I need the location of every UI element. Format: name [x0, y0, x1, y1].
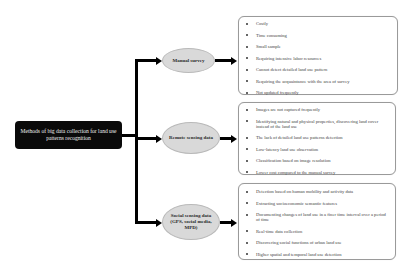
arrowhead-to-remote-list	[231, 135, 237, 143]
list-item: Requiring intensive labor resources	[239, 56, 397, 61]
bullet-icon	[246, 148, 248, 150]
characteristics-list-manual-survey: Costly Time consuming Small sample Requi…	[239, 21, 397, 95]
characteristics-box-manual-survey: Costly Time consuming Small sample Requi…	[238, 16, 398, 95]
bullet-icon	[246, 92, 248, 94]
bullet-icon	[246, 214, 248, 216]
bullet-icon	[246, 109, 248, 111]
root-node-box: Methods of big data collection for land …	[15, 121, 122, 149]
characteristics-box-social-sensing: Detection based on human mobility and ac…	[238, 183, 396, 260]
bullet-icon	[246, 202, 248, 204]
list-item: Lower cost compared to the manual survey	[239, 170, 395, 175]
arrowhead-to-social-list	[231, 219, 237, 227]
list-item: Classification based on image resolution	[239, 158, 395, 163]
bullet-icon	[246, 230, 248, 232]
bullet-icon	[246, 23, 248, 25]
method-label-manual-survey: Manual survey	[172, 58, 204, 64]
list-item: Images are not captured frequently	[239, 107, 395, 112]
bullet-icon	[246, 69, 248, 71]
connector-branch-manual	[135, 59, 157, 62]
bullet-icon	[246, 80, 248, 82]
method-ellipse-remote-sensing: Remote sensing data	[162, 122, 220, 154]
bullet-icon	[246, 160, 248, 162]
list-item: Time consuming	[239, 33, 397, 38]
connector-branch-remote	[137, 137, 157, 140]
list-item: Low-latency land use observation	[239, 147, 395, 152]
list-item: Real-time data collection	[239, 229, 395, 234]
characteristics-list-remote-sensing: Images are not captured frequently Ident…	[239, 107, 395, 175]
characteristics-list-social-sensing: Detection based on human mobility and ac…	[239, 189, 395, 257]
list-item: The lack of detailed land use patterns d…	[239, 135, 395, 140]
list-item: Higher spatial and temporal land use det…	[239, 252, 395, 257]
method-ellipse-manual-survey: Manual survey	[162, 48, 215, 73]
list-item: Documenting changes of land use in a fin…	[239, 212, 395, 222]
root-node-label: Methods of big data collection for land …	[19, 128, 118, 141]
list-item: Extracting socioeconomic semantic featur…	[239, 201, 395, 206]
method-label-remote-sensing: Remote sensing data	[169, 135, 213, 141]
method-ellipse-social-sensing: Social sensing data (GPS, social media, …	[162, 204, 220, 240]
list-item: Identifying natural and physical propert…	[239, 119, 395, 129]
list-item: Detection based on human mobility and ac…	[239, 189, 395, 194]
list-item: Costly	[239, 21, 397, 26]
connector-manual-to-list	[215, 59, 232, 62]
bullet-icon	[246, 253, 248, 255]
characteristics-box-remote-sensing: Images are not captured frequently Ident…	[238, 102, 396, 175]
bullet-icon	[246, 57, 248, 59]
arrowhead-to-manual-list	[231, 57, 237, 65]
list-item: Small sample	[239, 44, 397, 49]
connector-trunk	[135, 59, 138, 224]
connector-branch-social	[135, 221, 157, 224]
list-item: Requiring the acquaintance with the area…	[239, 79, 397, 84]
bullet-icon	[246, 191, 248, 193]
bullet-icon	[246, 34, 248, 36]
list-item: Cannot detect detailed land use pattern	[239, 67, 397, 72]
bullet-icon	[246, 171, 248, 173]
bullet-icon	[246, 137, 248, 139]
bullet-icon	[246, 242, 248, 244]
list-item: Discovering social functions of urban la…	[239, 240, 395, 245]
list-item: Not updated frequently	[239, 90, 397, 95]
bullet-icon	[246, 46, 248, 48]
method-label-social-sensing: Social sensing data (GPS, social media, …	[168, 213, 214, 230]
bullet-icon	[246, 120, 248, 122]
